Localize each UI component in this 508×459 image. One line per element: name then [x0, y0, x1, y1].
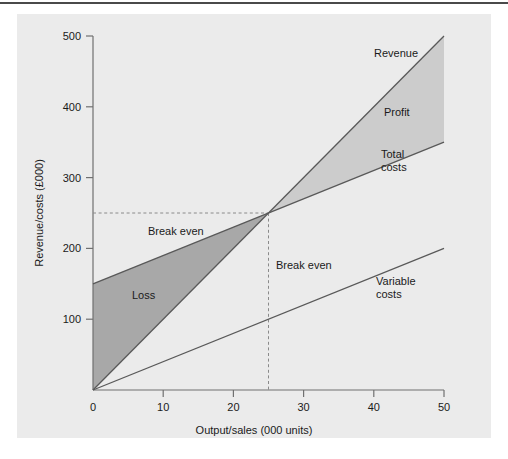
- x-axis-tick-label: 30: [297, 401, 309, 413]
- y-axis-ticks: [86, 36, 93, 319]
- profit-region-label: Profit: [384, 106, 410, 118]
- x-axis-tick-label: 20: [227, 401, 239, 413]
- x-axis-title: Output/sales (000 units): [196, 424, 313, 436]
- x-axis-tick-label: 40: [368, 401, 380, 413]
- loss-region-label: Loss: [132, 289, 156, 301]
- y-axis-title: Revenue/costs (£000): [33, 159, 45, 267]
- break-even-horizontal-label: Break even: [148, 225, 204, 237]
- x-axis-ticks: [163, 390, 444, 397]
- x-axis-tick-label: 10: [157, 401, 169, 413]
- y-axis-tick-label: 200: [63, 242, 81, 254]
- y-axis-tick-labels: 100200300400500: [63, 30, 81, 325]
- x-axis-tick-label: 50: [438, 401, 450, 413]
- variable-costs-series-label-line2: costs: [376, 288, 402, 300]
- y-axis-tick-label: 300: [63, 172, 81, 184]
- variable-costs-series-label-line1: Variable: [376, 275, 416, 287]
- revenue-series-label: Revenue: [374, 47, 418, 59]
- y-axis-tick-label: 100: [63, 313, 81, 325]
- y-axis-tick-label: 400: [63, 101, 81, 113]
- y-axis-tick-label: 500: [63, 30, 81, 42]
- figure-container: 100200300400500 01020304050 Output/sales…: [0, 0, 508, 459]
- total-costs-series-label-line2: costs: [381, 161, 407, 173]
- total-costs-series-label-line1: Total: [381, 148, 404, 160]
- break-even-chart: 100200300400500 01020304050 Output/sales…: [0, 0, 508, 459]
- x-axis-tick-label: 0: [90, 401, 96, 413]
- x-axis-tick-labels: 01020304050: [90, 401, 450, 413]
- break-even-vertical-label: Break even: [276, 259, 332, 271]
